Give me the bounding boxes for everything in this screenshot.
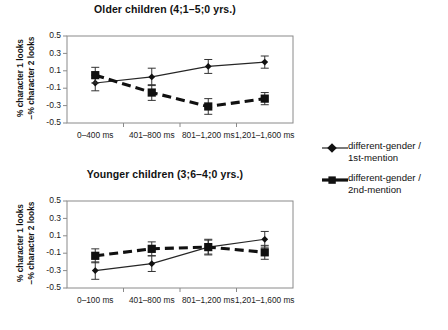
data-point-square (91, 71, 99, 79)
x-tick-label: 0–400 ms (77, 130, 113, 140)
data-point-square (91, 252, 99, 260)
x-tick-label: 401–800 ms (129, 130, 175, 140)
data-point-square (204, 243, 212, 251)
legend-label-line2: 1st-mention (348, 152, 421, 164)
y-tick-label: -0.1 (46, 82, 61, 92)
data-point-square (148, 88, 156, 96)
legend-marker-diamond-icon (322, 140, 348, 162)
legend: different-gender / 1st-mention different… (322, 140, 448, 204)
y-tick-label: 0.5 (49, 30, 61, 40)
y-tick-label: -0.3 (46, 265, 61, 275)
y-tick-label: -0.3 (46, 100, 61, 110)
legend-item-2nd-mention: different-gender / 2nd-mention (322, 172, 448, 195)
series-line-solid (95, 62, 264, 83)
data-point-square (261, 248, 269, 256)
legend-item-1st-mention: different-gender / 1st-mention (322, 140, 448, 163)
data-point-square (148, 245, 156, 253)
x-tick-label: 1,201–1,600 ms (235, 295, 295, 305)
data-point-diamond (261, 236, 268, 243)
axis-frame (67, 36, 293, 123)
y-tick-label: -0.5 (46, 117, 61, 127)
series-line-dashed (95, 247, 264, 256)
data-point-diamond (261, 59, 268, 66)
chart-panel-older-children: Older children (4;1–5;0 yrs.) % characte… (0, 0, 330, 165)
legend-label-line1: different-gender / (348, 140, 421, 152)
data-point-square (204, 102, 212, 110)
data-point-diamond (148, 73, 155, 80)
chart-panel-younger-children: Younger children (3;6–4;0 yrs.) % charac… (0, 165, 330, 330)
x-tick-label: 801–1,200 ms (182, 130, 235, 140)
figure-root: Older children (4;1–5;0 yrs.) % characte… (0, 0, 448, 330)
y-tick-label: 0.1 (49, 65, 61, 75)
legend-label-line1: different-gender / (348, 172, 421, 184)
plot-area-older: 0.50.30.1-0.1-0.3-0.50–400 ms401–800 ms8… (0, 0, 330, 165)
data-point-diamond (205, 63, 212, 70)
x-tick-label: 801–1,200 ms (182, 295, 235, 305)
data-point-diamond (92, 267, 99, 274)
x-tick-label: 1,201–1,600 ms (235, 130, 295, 140)
legend-label-1st-mention: different-gender / 1st-mention (348, 140, 421, 163)
y-tick-label: 0.3 (49, 48, 61, 58)
y-tick-label: 0.3 (49, 213, 61, 223)
y-tick-label: -0.1 (46, 247, 61, 257)
x-tick-label: 0–100 ms (77, 295, 113, 305)
plot-area-younger: 0.50.30.1-0.1-0.3-0.50–100 ms401–800 ms8… (0, 165, 330, 330)
series-line-solid (95, 239, 264, 270)
y-tick-label: 0.1 (49, 230, 61, 240)
data-point-square (261, 95, 269, 103)
legend-label-line2: 2nd-mention (348, 184, 421, 196)
axis-frame (67, 201, 293, 288)
x-tick-label: 401–800 ms (129, 295, 175, 305)
y-tick-label: 0.5 (49, 195, 61, 205)
y-tick-label: -0.5 (46, 282, 61, 292)
data-point-diamond (148, 260, 155, 267)
legend-marker-square-icon (322, 172, 348, 194)
legend-label-2nd-mention: different-gender / 2nd-mention (348, 172, 421, 195)
